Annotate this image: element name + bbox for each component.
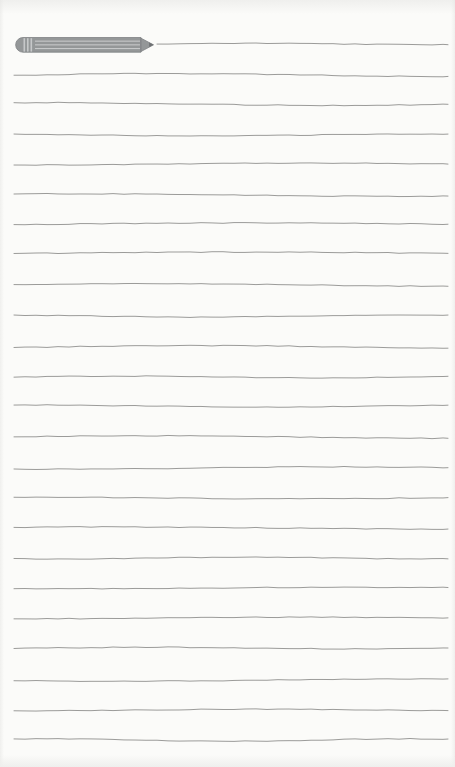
ruled-line bbox=[14, 405, 448, 408]
pencil-body-stripe bbox=[35, 48, 140, 49]
ruled-line bbox=[14, 587, 448, 589]
ruled-line bbox=[14, 466, 448, 469]
ruled-line bbox=[14, 345, 448, 348]
ruled-line bbox=[14, 283, 448, 286]
ruled-line bbox=[14, 557, 448, 559]
ruled-line bbox=[14, 679, 448, 682]
pencil-ferrule-stripe bbox=[31, 38, 33, 51]
ruled-line bbox=[14, 497, 448, 499]
ruled-line bbox=[14, 193, 448, 196]
pencil-body-stripe bbox=[35, 41, 140, 42]
note-writing-area[interactable] bbox=[0, 0, 455, 767]
ruled-line bbox=[14, 617, 448, 619]
ruled-line bbox=[14, 647, 448, 649]
pencil-ferrule-stripe bbox=[24, 38, 26, 51]
ruled-line bbox=[14, 102, 448, 106]
ruled-line bbox=[14, 709, 448, 711]
ruled-line bbox=[14, 163, 448, 165]
pencil-icon[interactable] bbox=[12, 34, 157, 56]
ruled-line bbox=[157, 43, 448, 45]
ruled-line bbox=[14, 435, 448, 438]
ruled-line bbox=[14, 73, 448, 76]
ruled-line bbox=[14, 527, 448, 530]
ruled-line bbox=[14, 223, 448, 225]
ruled-lines bbox=[0, 0, 455, 767]
pencil-ferrule-stripe bbox=[27, 38, 29, 51]
ruled-line bbox=[14, 738, 448, 741]
ruled-line bbox=[14, 252, 448, 254]
ruled-line bbox=[14, 376, 448, 378]
ruled-line bbox=[14, 315, 448, 317]
pencil-body-stripe bbox=[35, 44, 140, 45]
ruled-line bbox=[14, 134, 448, 136]
